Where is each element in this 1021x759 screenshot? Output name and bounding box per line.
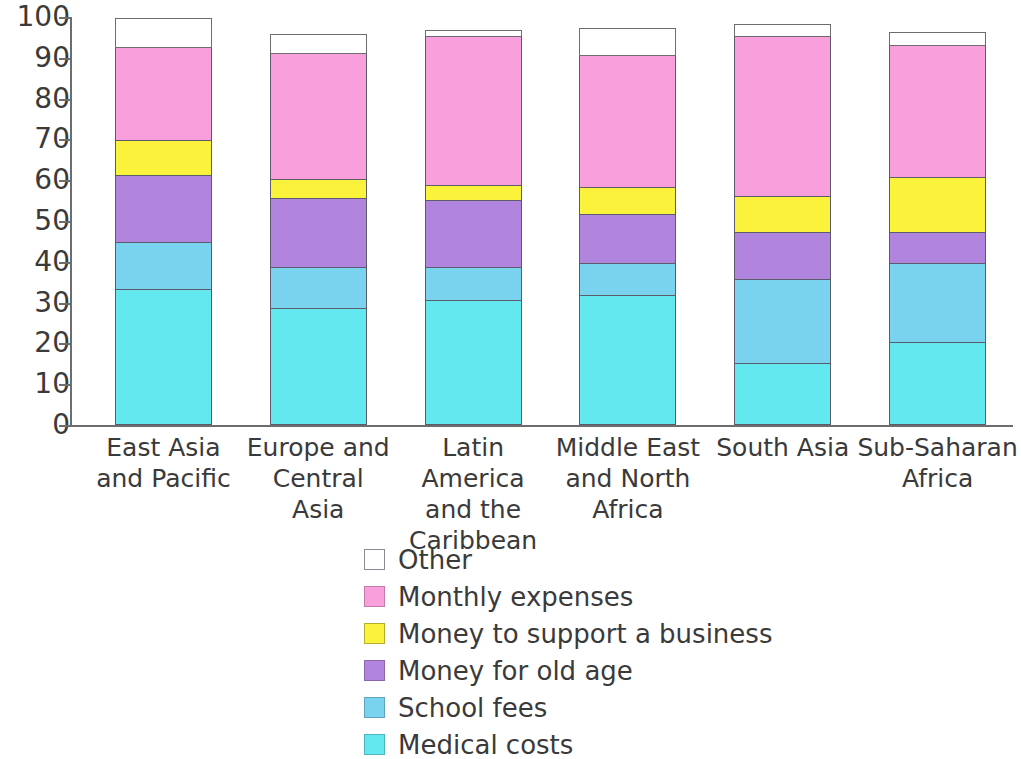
bar-group[interactable] xyxy=(734,25,831,425)
legend-label: School fees xyxy=(398,695,547,721)
legend-color-swatch-icon xyxy=(364,549,385,570)
y-axis-tick-mark xyxy=(59,343,71,345)
y-axis-tick-mark xyxy=(59,180,71,182)
legend-label: Money for old age xyxy=(398,658,633,684)
bar-segment[interactable] xyxy=(734,279,831,364)
chart-legend: OtherMonthly expensesMoney to support a … xyxy=(364,541,772,759)
x-axis-label: Europe andCentralAsia xyxy=(233,432,403,525)
stacked-bar[interactable] xyxy=(270,35,367,425)
legend-label: Monthly expenses xyxy=(398,584,633,610)
stacked-bar[interactable] xyxy=(425,31,522,425)
bar-segment[interactable] xyxy=(734,363,831,425)
legend-item[interactable]: Other xyxy=(364,541,772,578)
bar-segment[interactable] xyxy=(734,232,831,280)
bar-segment[interactable] xyxy=(270,198,367,268)
x-axis-label-line: Latin America xyxy=(388,432,558,494)
bar-segment[interactable] xyxy=(734,36,831,196)
bar-segment[interactable] xyxy=(579,214,676,264)
bar-segment[interactable] xyxy=(115,140,212,176)
y-axis-tick-mark xyxy=(59,139,71,141)
bar-segment[interactable] xyxy=(889,342,986,425)
bar-segment[interactable] xyxy=(115,289,212,425)
x-axis-label-line: South Asia xyxy=(698,432,868,463)
bar-segment[interactable] xyxy=(889,263,986,344)
bar-group[interactable] xyxy=(115,19,212,425)
x-axis-label-line: Asia xyxy=(233,494,403,525)
y-axis-tick-mark xyxy=(59,99,71,101)
bar-segment[interactable] xyxy=(889,45,986,179)
legend-item[interactable]: Money for old age xyxy=(364,652,772,689)
x-axis-label-line: Africa xyxy=(543,494,713,525)
bar-segment[interactable] xyxy=(579,28,676,56)
bar-segment[interactable] xyxy=(579,295,676,425)
legend-label: Other xyxy=(398,547,472,573)
y-axis-tick-mark xyxy=(59,384,71,386)
legend-color-swatch-icon xyxy=(364,660,385,681)
bar-group[interactable] xyxy=(579,29,676,425)
bar-segment[interactable] xyxy=(425,36,522,186)
y-axis-tick-mark xyxy=(59,58,71,60)
legend-label: Medical costs xyxy=(398,732,573,758)
x-axis-label: East Asiaand Pacific xyxy=(78,432,248,494)
legend-color-swatch-icon xyxy=(364,734,385,755)
bar-segment[interactable] xyxy=(115,18,212,48)
legend-item[interactable]: Money to support a business xyxy=(364,615,772,652)
x-axis-label-line: East Asia xyxy=(78,432,248,463)
x-axis-label: Middle Eastand NorthAfrica xyxy=(543,432,713,525)
bar-segment[interactable] xyxy=(579,187,676,215)
legend-color-swatch-icon xyxy=(364,623,385,644)
x-axis-label-line: Africa xyxy=(853,463,1021,494)
bar-segment[interactable] xyxy=(579,55,676,189)
legend-color-swatch-icon xyxy=(364,697,385,718)
bar-segment[interactable] xyxy=(270,34,367,53)
x-axis-label-line: and the xyxy=(388,494,558,525)
y-axis-tick-mark xyxy=(59,425,71,427)
bar-segment[interactable] xyxy=(425,30,522,37)
bar-segment[interactable] xyxy=(115,242,212,290)
x-axis-line xyxy=(70,425,1013,427)
bar-group[interactable] xyxy=(270,35,367,425)
legend-color-swatch-icon xyxy=(364,586,385,607)
x-axis-label-line: Central xyxy=(233,463,403,494)
y-axis-tick-mark xyxy=(59,17,71,19)
legend-item[interactable]: Monthly expenses xyxy=(364,578,772,615)
bar-segment[interactable] xyxy=(579,263,676,297)
legend-item[interactable]: School fees xyxy=(364,689,772,726)
x-axis-label: Sub-SaharanAfrica xyxy=(853,432,1021,494)
bar-segment[interactable] xyxy=(889,232,986,264)
x-axis-label-line: Europe and xyxy=(233,432,403,463)
x-axis-label-line: Middle East xyxy=(543,432,713,463)
stacked-bar[interactable] xyxy=(115,19,212,425)
bar-segment[interactable] xyxy=(889,32,986,45)
bar-segment[interactable] xyxy=(115,175,212,243)
x-axis-label-line: and Pacific xyxy=(78,463,248,494)
bar-segment[interactable] xyxy=(270,308,367,425)
bar-group[interactable] xyxy=(889,33,986,425)
x-axis-category-labels: East Asiaand PacificEurope andCentralAsi… xyxy=(84,432,1013,532)
x-axis-label-line: Sub-Saharan xyxy=(853,432,1021,463)
stacked-bar[interactable] xyxy=(889,33,986,425)
plot-area xyxy=(84,17,1013,425)
bar-segment[interactable] xyxy=(270,53,367,180)
bar-segment[interactable] xyxy=(425,267,522,301)
x-axis-label: Latin Americaand theCaribbean xyxy=(388,432,558,556)
bar-segment[interactable] xyxy=(889,177,986,233)
bar-segment[interactable] xyxy=(115,47,212,142)
y-axis-tick-mark xyxy=(59,262,71,264)
stacked-bar[interactable] xyxy=(579,29,676,425)
x-axis-label-line: and North xyxy=(543,463,713,494)
stacked-bar[interactable] xyxy=(734,25,831,425)
bar-group[interactable] xyxy=(425,31,522,425)
y-axis-tick-mark xyxy=(59,221,71,223)
bar-segment[interactable] xyxy=(425,300,522,425)
bar-segment[interactable] xyxy=(270,179,367,198)
bar-segment[interactable] xyxy=(734,196,831,234)
y-axis-tick-mark xyxy=(59,303,71,305)
legend-item[interactable]: Medical costs xyxy=(364,726,772,759)
bar-segment[interactable] xyxy=(425,185,522,200)
legend-label: Money to support a business xyxy=(398,621,772,647)
bar-segment[interactable] xyxy=(425,200,522,268)
bar-segment[interactable] xyxy=(734,24,831,37)
bar-segment[interactable] xyxy=(270,267,367,309)
